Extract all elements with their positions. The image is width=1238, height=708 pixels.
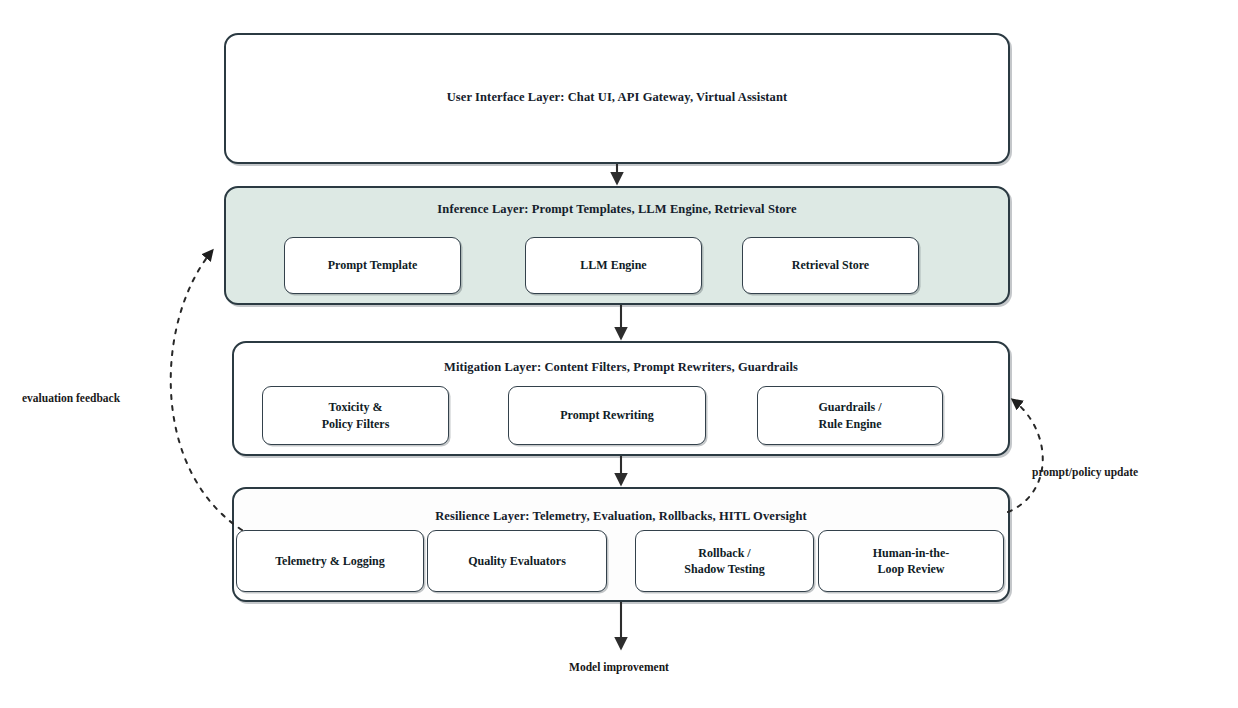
subbox-telemetry-logging-label: Telemetry & Logging xyxy=(275,553,385,569)
layer-resilience-title: Resilience Layer: Telemetry, Evaluation,… xyxy=(234,509,1008,524)
subbox-quality-evaluators[interactable]: Quality Evaluators xyxy=(427,530,607,592)
layer-user-interface-title: User Interface Layer: Chat UI, API Gatew… xyxy=(226,90,1008,105)
subbox-guardrails-rule-engine-label: Guardrails /Rule Engine xyxy=(818,399,881,431)
subbox-human-in-the-loop-review-label: Human-in-the-Loop Review xyxy=(873,545,950,577)
subbox-rollback-shadow-testing-label: Rollback /Shadow Testing xyxy=(684,545,764,577)
subbox-retrieval-store[interactable]: Retrieval Store xyxy=(742,237,919,294)
layer-inference-title: Inference Layer: Prompt Templates, LLM E… xyxy=(226,202,1008,217)
subbox-telemetry-logging[interactable]: Telemetry & Logging xyxy=(236,530,424,592)
edge-label-prompt-policy-update: prompt/policy update xyxy=(1032,466,1138,478)
subbox-retrieval-store-label: Retrieval Store xyxy=(792,257,869,273)
edge-label-evaluation-feedback: evaluation feedback xyxy=(22,392,120,404)
architecture-diagram: User Interface Layer: Chat UI, API Gatew… xyxy=(0,0,1238,708)
subbox-prompt-template-label: Prompt Template xyxy=(328,257,417,273)
subbox-guardrails-rule-engine[interactable]: Guardrails /Rule Engine xyxy=(757,386,943,445)
subbox-toxicity-policy-filters-label: Toxicity &Policy Filters xyxy=(322,399,390,431)
subbox-quality-evaluators-label: Quality Evaluators xyxy=(468,553,566,569)
subbox-toxicity-policy-filters[interactable]: Toxicity &Policy Filters xyxy=(262,386,449,445)
dashed-edge-prompt-policy-update xyxy=(1008,400,1043,512)
output-label-model-improvement: Model improvement xyxy=(0,661,1238,673)
layer-mitigation-title: Mitigation Layer: Content Filters, Promp… xyxy=(234,360,1008,375)
subbox-prompt-template[interactable]: Prompt Template xyxy=(284,237,461,294)
subbox-llm-engine[interactable]: LLM Engine xyxy=(525,237,702,294)
subbox-rollback-shadow-testing[interactable]: Rollback /Shadow Testing xyxy=(635,530,814,592)
subbox-llm-engine-label: LLM Engine xyxy=(580,257,646,273)
subbox-prompt-rewriting-label: Prompt Rewriting xyxy=(560,407,653,423)
subbox-human-in-the-loop-review[interactable]: Human-in-the-Loop Review xyxy=(818,530,1004,592)
subbox-prompt-rewriting[interactable]: Prompt Rewriting xyxy=(508,386,706,445)
layer-user-interface[interactable]: User Interface Layer: Chat UI, API Gatew… xyxy=(224,33,1010,164)
